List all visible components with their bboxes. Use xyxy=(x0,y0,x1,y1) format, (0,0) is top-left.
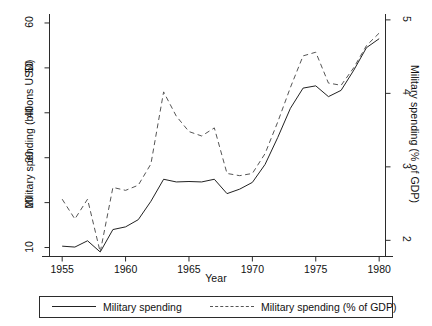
y-axis-right-title: Military spending (% of GDP) xyxy=(409,49,421,219)
x-tick-1975: 1975 xyxy=(296,263,336,275)
series-line-military-spending-pct-gdp xyxy=(62,33,379,252)
y-right-tick-2: 2 xyxy=(401,224,413,254)
bottom-axis-ticks xyxy=(62,257,379,262)
x-tick-1965: 1965 xyxy=(169,263,209,275)
x-tick-1970: 1970 xyxy=(232,263,272,275)
legend-label-military-spending-pct-gdp: Military spending (% of GDP) xyxy=(261,301,396,313)
y-left-tick-40: 40 xyxy=(23,97,35,127)
legend-label-military-spending: Military spending xyxy=(103,301,182,313)
y-left-tick-60: 60 xyxy=(23,7,35,37)
y-right-tick-5: 5 xyxy=(401,4,413,34)
x-tick-1960: 1960 xyxy=(106,263,146,275)
y-left-tick-10: 10 xyxy=(23,232,35,262)
y-left-tick-20: 20 xyxy=(23,187,35,217)
series-line-military-spending xyxy=(62,39,379,252)
y-left-tick-30: 30 xyxy=(23,142,35,172)
legend-swatch-solid xyxy=(52,306,96,308)
legend-swatch-dashed xyxy=(210,306,254,308)
y-right-tick-4: 4 xyxy=(401,77,413,107)
x-tick-1955: 1955 xyxy=(42,263,82,275)
y-left-tick-50: 50 xyxy=(23,52,35,82)
legend-item-military-spending: Military spending xyxy=(52,297,182,317)
y-right-tick-3: 3 xyxy=(401,151,413,181)
chart-container: Military spending (billions USD) Militar… xyxy=(0,0,432,326)
right-axis-ticks xyxy=(386,20,391,240)
x-tick-1980: 1980 xyxy=(359,263,399,275)
chart-legend: Military spending Military spending (% o… xyxy=(39,296,393,318)
legend-item-military-spending-pct-gdp: Military spending (% of GDP) xyxy=(210,297,396,317)
left-axis-ticks xyxy=(45,23,50,248)
